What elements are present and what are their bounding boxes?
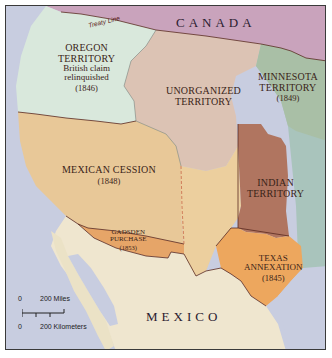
scale-miles-zero: 0: [18, 295, 22, 302]
gadsden-name-2: PURCHASE: [110, 236, 147, 243]
scale-bar: 0 200 Miles 0 200 Kilometers: [14, 295, 104, 345]
scale-ruler-icon: [22, 309, 72, 317]
country-label-canada: CANADA: [176, 15, 256, 31]
label-minnesota-territory: MINNESOTA TERRITORY (1849): [258, 72, 318, 103]
label-gadsden-purchase: GADSDEN PURCHASE (1853): [110, 229, 147, 252]
label-texas-annexation: TEXAS ANNEXATION (1845): [244, 254, 303, 283]
mexican-cession-name: MEXICAN CESSION: [62, 165, 156, 176]
minnesota-name-2: TERRITORY: [258, 83, 318, 94]
oregon-note-2: relinquished: [58, 73, 115, 82]
unorganized-name-2: TERRITORY: [166, 97, 241, 108]
label-unorganized-territory: UNORGANIZED TERRITORY: [166, 86, 241, 107]
scale-km-zero: 0: [18, 323, 22, 330]
texas-year: (1845): [244, 274, 303, 283]
country-label-mexico: MEXICO: [146, 309, 221, 325]
unorganized-name-1: UNORGANIZED: [166, 86, 241, 97]
label-indian-territory: INDIAN TERRITORY: [247, 178, 304, 199]
minnesota-year: (1849): [258, 94, 318, 103]
indian-name-2: TERRITORY: [247, 189, 304, 200]
label-mexican-cession: MEXICAN CESSION (1848): [62, 165, 156, 185]
oregon-year: (1846): [58, 84, 115, 93]
minnesota-name-1: MINNESOTA: [258, 72, 318, 83]
map-frame: CANADA MEXICO Treaty Line OREGON TERRITO…: [5, 5, 326, 350]
gadsden-year: (1853): [110, 245, 147, 252]
mexican-cession-year: (1848): [62, 177, 156, 186]
label-oregon-territory: OREGON TERRITORY British claim relinquis…: [58, 43, 115, 93]
scale-miles-label: 200 Miles: [40, 295, 70, 302]
texas-name-2: ANNEXATION: [244, 263, 303, 272]
indian-name-1: INDIAN: [247, 178, 304, 189]
oregon-name-1: OREGON: [58, 43, 115, 54]
scale-km-label: 200 Kilometers: [40, 323, 87, 330]
